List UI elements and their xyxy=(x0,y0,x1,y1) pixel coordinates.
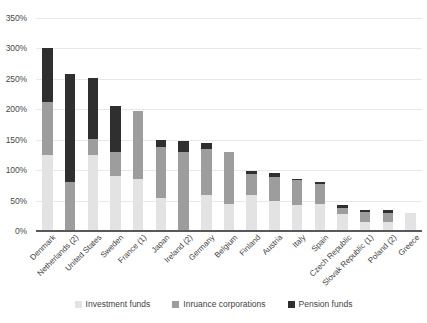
y-tick-label: 150% xyxy=(0,135,27,145)
bar-segment xyxy=(156,140,166,147)
bar-group xyxy=(178,141,188,231)
y-tick-label: 250% xyxy=(0,74,27,84)
bar-segment xyxy=(224,152,234,204)
bar-segment xyxy=(246,174,256,194)
x-tick-label: Greece xyxy=(396,233,421,258)
bar-segment xyxy=(269,201,279,231)
legend-item[interactable]: Investment funds xyxy=(75,299,151,309)
bar-segment xyxy=(88,155,98,231)
bar-group xyxy=(42,48,52,231)
x-tick-label: Belgium xyxy=(213,233,240,260)
bar-segment xyxy=(315,184,325,203)
bar-segment xyxy=(65,182,75,231)
bar-segment xyxy=(201,149,211,195)
bar-group xyxy=(156,140,166,231)
bar-segment xyxy=(292,205,302,231)
bar-segment xyxy=(292,180,302,206)
bar-segment xyxy=(42,102,52,155)
bar-group xyxy=(383,210,393,231)
x-axis-labels: DenmarkNetherlands (2)United StatesSwede… xyxy=(36,233,422,295)
legend-swatch-icon xyxy=(288,301,295,308)
x-tick-label: Italy xyxy=(291,233,308,250)
legend-item[interactable]: Inruance corporations xyxy=(172,299,265,309)
chart-legend: Investment fundsInruance corporationsPen… xyxy=(0,299,427,309)
stacked-bar-chart: 0%50%100%150%200%250%300%350% DenmarkNet… xyxy=(0,0,427,323)
bar-segment xyxy=(42,155,52,231)
y-tick-label: 350% xyxy=(0,13,27,23)
bar-segment xyxy=(360,212,370,222)
bar-segment xyxy=(42,48,52,102)
bars-layer xyxy=(36,18,422,231)
legend-item[interactable]: Pension funds xyxy=(288,299,353,309)
bar-segment xyxy=(405,213,415,231)
bar-group xyxy=(246,171,256,231)
y-tick-label: 0% xyxy=(0,226,27,236)
bar-group xyxy=(133,111,143,231)
bar-segment xyxy=(156,198,166,231)
bar-group xyxy=(360,210,370,231)
bar-segment xyxy=(315,204,325,231)
x-tick-label: Austria xyxy=(261,233,285,257)
bar-segment xyxy=(110,176,120,231)
bar-group xyxy=(110,106,120,231)
bar-segment xyxy=(178,152,188,231)
legend-label: Inruance corporations xyxy=(183,299,265,309)
x-tick-label: Finland xyxy=(237,233,262,258)
bar-segment xyxy=(133,111,143,179)
bar-group xyxy=(405,213,415,231)
bar-segment xyxy=(65,74,75,182)
plot-area: 0%50%100%150%200%250%300%350% xyxy=(36,18,422,231)
bar-segment xyxy=(246,195,256,232)
bar-segment xyxy=(88,139,98,155)
bar-group xyxy=(292,179,302,231)
bar-group xyxy=(269,173,279,231)
y-tick-label: 50% xyxy=(0,196,27,206)
x-axis-line xyxy=(36,230,422,232)
y-tick-label: 300% xyxy=(0,43,27,53)
bar-segment xyxy=(224,204,234,231)
bar-group xyxy=(201,143,211,231)
bar-segment xyxy=(337,214,347,231)
bar-segment xyxy=(156,147,166,198)
bar-segment xyxy=(133,179,143,231)
bar-group xyxy=(315,182,325,231)
bar-segment xyxy=(383,213,393,222)
bar-group xyxy=(224,152,234,231)
legend-swatch-icon xyxy=(172,301,179,308)
bar-segment xyxy=(269,177,279,200)
bar-segment xyxy=(201,195,211,232)
legend-label: Investment funds xyxy=(86,299,151,309)
legend-label: Pension funds xyxy=(299,299,353,309)
y-tick-label: 200% xyxy=(0,104,27,114)
bar-segment xyxy=(110,152,120,176)
bar-segment xyxy=(178,141,188,152)
bar-group xyxy=(65,74,75,231)
legend-swatch-icon xyxy=(75,301,82,308)
bar-group xyxy=(337,205,347,231)
y-tick-label: 100% xyxy=(0,165,27,175)
bar-segment xyxy=(88,78,98,139)
x-tick-label: Spain xyxy=(310,233,331,254)
bar-segment xyxy=(110,106,120,152)
bar-group xyxy=(88,78,98,231)
